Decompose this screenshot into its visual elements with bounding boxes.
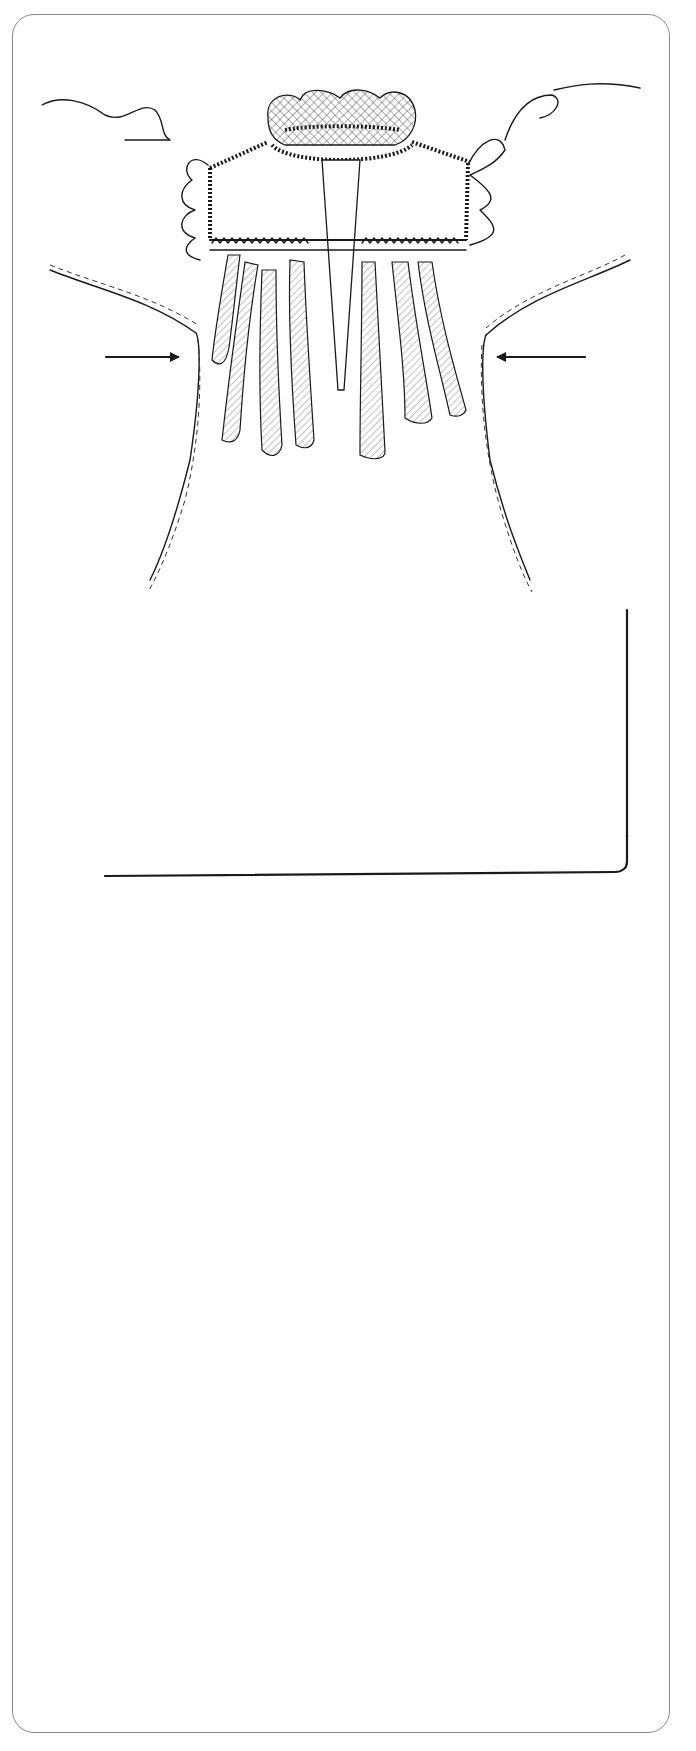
figure-3-drawing (42, 84, 640, 592)
figure-4-drawing (105, 610, 627, 876)
illustrations (0, 0, 696, 1751)
